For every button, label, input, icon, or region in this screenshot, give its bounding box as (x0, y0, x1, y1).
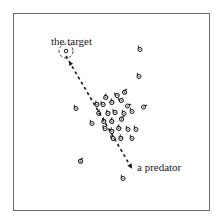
agent-icon (126, 126, 130, 132)
agent-icon (122, 89, 129, 95)
agent-icon (96, 109, 103, 116)
agent-icon (130, 135, 134, 141)
agent-icon (106, 110, 111, 116)
agent-icon (142, 105, 148, 109)
agent-icon (109, 127, 115, 134)
agent-icon (138, 46, 142, 52)
agent-icon (95, 101, 100, 107)
agent-icon (119, 116, 126, 122)
agent-icon (126, 104, 132, 108)
target-label: the target (51, 36, 92, 47)
agent-icon (122, 110, 126, 116)
agent-icon (118, 134, 124, 141)
arena-scene (0, 0, 220, 222)
agent-icon (74, 105, 78, 111)
target-agent-icon (64, 49, 68, 53)
agent-icon (130, 108, 134, 114)
agent-icon (109, 117, 115, 124)
diagram-figure: the target a predator (0, 0, 220, 222)
agent-icon (114, 91, 120, 98)
predator-marker (127, 163, 134, 170)
agent-icon (78, 158, 85, 164)
predator-arrow-icon (127, 163, 134, 170)
predator-label: a predator (137, 162, 181, 173)
agent-icon (90, 120, 94, 126)
agent-icon (137, 73, 141, 79)
agent-icon (112, 109, 117, 115)
agent-icon (134, 126, 138, 132)
agent-icon (109, 98, 115, 105)
target-arrow-icon (67, 60, 73, 66)
agent-icon (116, 124, 122, 131)
agent-icon (100, 101, 105, 107)
agent-icon (103, 93, 109, 100)
agent-icon (121, 175, 125, 181)
